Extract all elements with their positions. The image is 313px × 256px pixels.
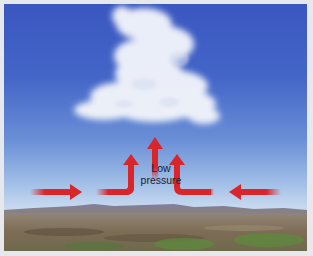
image-frame: Low pressure bbox=[0, 0, 313, 256]
arrow-right-inflow bbox=[229, 184, 281, 200]
arrow-left-inflow bbox=[30, 184, 82, 200]
label-line-low: Low bbox=[137, 162, 185, 174]
low-pressure-label: Low pressure bbox=[137, 162, 185, 186]
sky-scene: Low pressure bbox=[4, 4, 307, 251]
arrow-left-bend-up bbox=[96, 154, 139, 192]
airflow-arrows bbox=[4, 4, 307, 251]
label-line-pressure: pressure bbox=[137, 174, 185, 186]
